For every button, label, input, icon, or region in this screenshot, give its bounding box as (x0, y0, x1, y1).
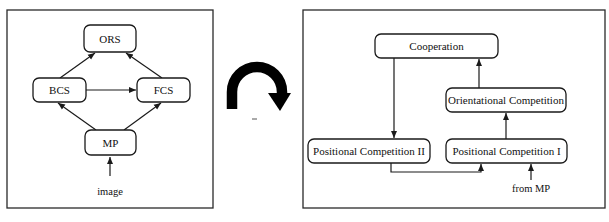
node-mp-label: MP (103, 137, 119, 149)
node-cooperation-label: Cooperation (409, 40, 464, 52)
node-fcs-label: FCS (154, 84, 174, 96)
node-bcs: BCS (33, 78, 86, 102)
left-panel: ORS BCS FCS MP image (7, 10, 213, 208)
node-orientational-label: Orientational Competition (448, 94, 564, 106)
edge-bcs-to-ors (60, 53, 95, 78)
node-ors-label: ORS (99, 33, 120, 45)
node-ors: ORS (84, 25, 136, 52)
node-cooperation: Cooperation (375, 34, 498, 58)
edge-mp-to-fcs (124, 103, 161, 130)
node-bcs-label: BCS (49, 84, 70, 96)
curved-arrow-icon (232, 67, 291, 119)
edge-mp-to-bcs (58, 103, 96, 130)
node-positional-competition-2: Positional Competition II (308, 139, 430, 163)
node-mp: MP (85, 130, 136, 155)
edge-fcs-to-ors (126, 53, 162, 78)
input-label-from-mp: from MP (512, 183, 550, 194)
right-panel: Cooperation Orientational Competition Po… (303, 10, 605, 208)
node-positional-competition-1: Positional Competition I (446, 139, 567, 163)
edge-pos2-to-pos1 (391, 163, 481, 172)
diagram-canvas: ORS BCS FCS MP image Coope (0, 0, 609, 222)
node-fcs: FCS (137, 78, 190, 102)
node-orientational-competition: Orientational Competition (446, 88, 566, 112)
node-positional-2-label: Positional Competition II (313, 145, 425, 157)
node-positional-1-label: Positional Competition I (452, 145, 561, 157)
input-label-image: image (97, 186, 123, 197)
